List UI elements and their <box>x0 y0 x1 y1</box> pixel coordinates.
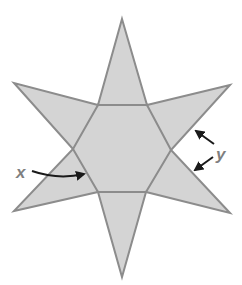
arrow-y-lower <box>195 157 213 170</box>
hexagram-diagram: x y <box>0 0 242 285</box>
star-shape <box>14 19 230 277</box>
label-y: y <box>215 145 227 164</box>
label-x: x <box>15 163 27 182</box>
arrow-y-upper <box>196 131 214 144</box>
